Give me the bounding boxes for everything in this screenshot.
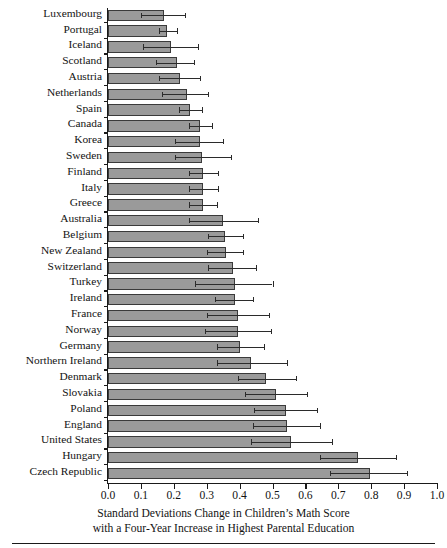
y-axis-tick: [104, 322, 108, 323]
y-axis-label-northern-ireland: Northern Ireland: [26, 353, 102, 369]
bar-row: Scotland: [108, 55, 437, 71]
x-axis-tick: [437, 484, 438, 489]
x-axis-title-line-2: with a Four-Year Increase in Highest Par…: [0, 522, 447, 537]
y-axis-tick: [104, 117, 108, 118]
y-axis-tick: [104, 22, 108, 23]
error-bar-cap-high: [200, 76, 201, 81]
bar-row: Turkey: [108, 277, 437, 293]
error-bar-cap-high: [396, 455, 397, 460]
error-bar-cap-low: [159, 28, 160, 33]
error-bar-cap-high: [194, 60, 195, 65]
y-axis-label-czech-republic: Czech Republic: [30, 464, 102, 480]
error-bar-line: [195, 284, 272, 285]
error-bar-cap-high: [332, 439, 333, 444]
error-bar-cap-high: [271, 329, 272, 334]
error-bar-line: [215, 300, 253, 301]
error-bar-line: [156, 63, 194, 64]
y-axis-label-england: England: [64, 417, 102, 433]
footer-rule: [12, 543, 435, 544]
y-axis-tick: [104, 259, 108, 260]
x-axis-tick: [207, 484, 208, 489]
bar-row: Czech Republic: [108, 466, 437, 482]
x-axis-tick: [141, 484, 142, 489]
bar-row: Finland: [108, 166, 437, 182]
error-bar-line: [217, 363, 288, 364]
error-bar-cap-high: [218, 186, 219, 191]
y-axis-label-ireland: Ireland: [70, 290, 102, 306]
error-bar-cap-low: [162, 92, 163, 97]
error-bar-cap-high: [296, 376, 297, 381]
error-bar-cap-low: [195, 281, 196, 286]
y-axis-tick: [104, 243, 108, 244]
x-axis-tick: [174, 484, 175, 489]
bar-row: Greece: [108, 198, 437, 214]
y-axis-label-turkey: Turkey: [70, 274, 103, 290]
bar-row: Austria: [108, 71, 437, 87]
error-bar-cap-high: [273, 281, 274, 286]
error-bar-cap-high: [256, 265, 257, 270]
error-bar-cap-low: [189, 218, 190, 223]
bar-row: Norway: [108, 324, 437, 340]
error-bar-cap-high: [307, 392, 308, 397]
bar-row: Denmark: [108, 371, 437, 387]
x-axis-title-line-1: Standard Deviations Change in Children’s…: [0, 507, 447, 522]
bar-row: United States: [108, 435, 437, 451]
error-bar-line: [253, 426, 320, 427]
bar-row: Canada: [108, 119, 437, 135]
y-axis-label-switzerland: Switzerland: [48, 259, 102, 275]
y-axis-label-slovakia: Slovakia: [62, 385, 102, 401]
y-axis-tick: [104, 180, 108, 181]
y-axis-label-hungary: Hungary: [62, 448, 102, 464]
error-bar-line: [143, 47, 199, 48]
error-bar-line: [175, 157, 231, 158]
y-axis-label-iceland: Iceland: [68, 37, 102, 53]
y-axis-label-luxembourg: Luxembourg: [43, 6, 102, 22]
error-bar-line: [208, 268, 256, 269]
y-axis-tick: [104, 354, 108, 355]
y-axis-tick: [104, 385, 108, 386]
y-axis-tick: [104, 132, 108, 133]
y-axis-tick: [104, 69, 108, 70]
x-axis-tick-label: 1.0: [417, 489, 447, 502]
bar-row: Australia: [108, 213, 437, 229]
y-axis-label-australia: Australia: [60, 211, 102, 227]
x-axis-tick: [273, 484, 274, 489]
error-bar-cap-low: [217, 344, 218, 349]
bar-row: Slovakia: [108, 387, 437, 403]
error-bar-cap-high: [243, 250, 244, 255]
error-bar-line: [189, 173, 219, 174]
error-bar-cap-low: [141, 13, 142, 18]
x-axis-tick: [240, 484, 241, 489]
error-bar-line: [159, 31, 177, 32]
y-axis-label-norway: Norway: [65, 322, 102, 338]
error-bar-line: [245, 394, 308, 395]
error-bar-line: [159, 78, 200, 79]
error-bar-line: [205, 331, 271, 332]
error-bar-cap-high: [317, 408, 318, 413]
x-axis-tick: [371, 484, 372, 489]
error-bar-cap-low: [175, 155, 176, 160]
y-axis-tick: [104, 290, 108, 291]
y-axis-label-finland: Finland: [67, 164, 102, 180]
error-bar-line: [238, 379, 296, 380]
error-bar-cap-high: [231, 155, 232, 160]
bar-row: Netherlands: [108, 87, 437, 103]
error-bar-line: [179, 110, 202, 111]
bar-row: Belgium: [108, 229, 437, 245]
y-axis-tick: [104, 275, 108, 276]
y-axis-tick: [104, 53, 108, 54]
y-axis-tick: [104, 38, 108, 39]
error-bar-cap-high: [218, 171, 219, 176]
bar-row: Hungary: [108, 450, 437, 466]
y-axis-tick: [104, 148, 108, 149]
error-bar-cap-low: [215, 297, 216, 302]
y-axis-tick: [104, 85, 108, 86]
error-bar-line: [208, 236, 243, 237]
y-axis-label-netherlands: Netherlands: [47, 85, 102, 101]
error-bar-cap-low: [156, 60, 157, 65]
y-axis-tick: [104, 227, 108, 228]
bar-row: France: [108, 308, 437, 324]
error-bar-cap-low: [159, 76, 160, 81]
bar: [108, 231, 225, 242]
error-bar-cap-high: [212, 123, 213, 128]
